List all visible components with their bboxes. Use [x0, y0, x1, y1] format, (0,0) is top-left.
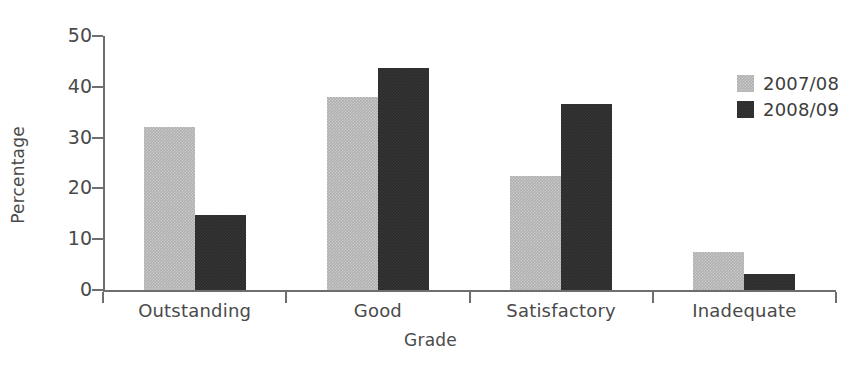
bar — [744, 274, 795, 290]
x-axis-category-label: Outstanding — [95, 300, 295, 321]
legend-item[interactable]: 2007/08 — [737, 70, 839, 96]
y-axis-tick-label: 40 — [8, 75, 92, 97]
chart-legend: 2007/082008/09 — [737, 70, 839, 122]
y-axis-tick — [92, 238, 103, 240]
x-axis-category-label: Good — [278, 300, 478, 321]
x-axis-category-label: Satisfactory — [461, 300, 661, 321]
x-axis-title: Grade — [0, 330, 861, 350]
legend-swatch-icon — [737, 101, 754, 118]
y-axis-tick — [92, 187, 103, 189]
y-axis-tick-label: 0 — [8, 278, 92, 300]
y-axis-tick — [92, 35, 103, 37]
legend-item[interactable]: 2008/09 — [737, 96, 839, 122]
y-axis-tick — [92, 137, 103, 139]
y-axis-tick-label: 50 — [8, 24, 92, 46]
y-axis-tick-label: 30 — [8, 126, 92, 148]
y-axis-tick-label: 10 — [8, 227, 92, 249]
legend-label: 2008/09 — [763, 99, 839, 120]
bar-chart: Percentage 01020304050 OutstandingGoodSa… — [0, 0, 861, 372]
bar — [378, 68, 429, 290]
legend-swatch-icon — [737, 75, 754, 92]
y-axis-tick-label: 20 — [8, 176, 92, 198]
bar — [144, 127, 195, 290]
bar — [510, 176, 561, 290]
y-axis-tick — [92, 289, 103, 291]
x-axis-category-label: Inadequate — [644, 300, 844, 321]
bar — [195, 215, 246, 290]
bar — [327, 97, 378, 290]
plot-area — [103, 36, 836, 290]
bar — [693, 252, 744, 290]
legend-label: 2007/08 — [763, 73, 839, 94]
bar — [561, 104, 612, 290]
y-axis-tick — [92, 86, 103, 88]
